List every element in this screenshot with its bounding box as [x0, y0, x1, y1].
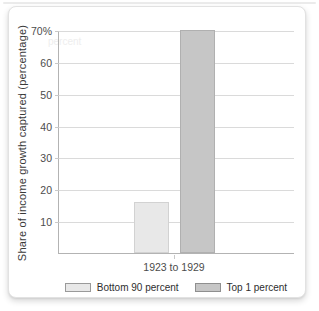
y-tick-label-40: 40: [20, 121, 52, 133]
legend-label: Bottom 90 percent: [97, 282, 179, 293]
y-tick-mark-10: [55, 222, 59, 223]
y-tick-label-10: 10: [20, 216, 52, 228]
legend-label: Top 1 percent: [227, 282, 288, 293]
y-tick-mark-50: [55, 95, 59, 96]
gridline-60: [59, 63, 294, 64]
page-divider-line: [3, 2, 316, 4]
legend-item-top-1-percent: Top 1 percent: [195, 282, 288, 293]
gridline-40: [59, 127, 294, 128]
chart-card: Share of income growth captured (percent…: [8, 6, 306, 298]
y-tick-mark-60: [55, 63, 59, 64]
legend-swatch-dark: [195, 283, 221, 292]
legend: Bottom 90 percentTop 1 percent: [58, 280, 294, 294]
y-tick-label-70: 70%: [20, 25, 52, 37]
bar-bottom-90-percent: [134, 202, 169, 253]
gridline-10: [59, 222, 294, 223]
x-axis-tick-mark: [174, 255, 175, 259]
legend-item-bottom-90-percent: Bottom 90 percent: [65, 282, 179, 293]
y-tick-label-30: 30: [20, 152, 52, 164]
plot-area: [58, 31, 294, 254]
legend-swatch-light: [65, 283, 91, 292]
y-tick-mark-40: [55, 127, 59, 128]
gridline-70: [59, 31, 294, 32]
bar-top-1-percent: [180, 30, 215, 253]
gridline-50: [59, 95, 294, 96]
y-tick-mark-20: [55, 190, 59, 191]
gridline-20: [59, 190, 294, 191]
y-tick-label-20: 20: [20, 184, 52, 196]
y-tick-mark-70: [55, 31, 59, 32]
y-tick-mark-30: [55, 158, 59, 159]
page-background: Share of income growth captured (percent…: [0, 0, 319, 311]
x-axis-category-label: 1923 to 1929: [143, 261, 204, 273]
y-tick-label-50: 50: [20, 89, 52, 101]
gridline-30: [59, 158, 294, 159]
y-tick-label-60: 60: [20, 57, 52, 69]
